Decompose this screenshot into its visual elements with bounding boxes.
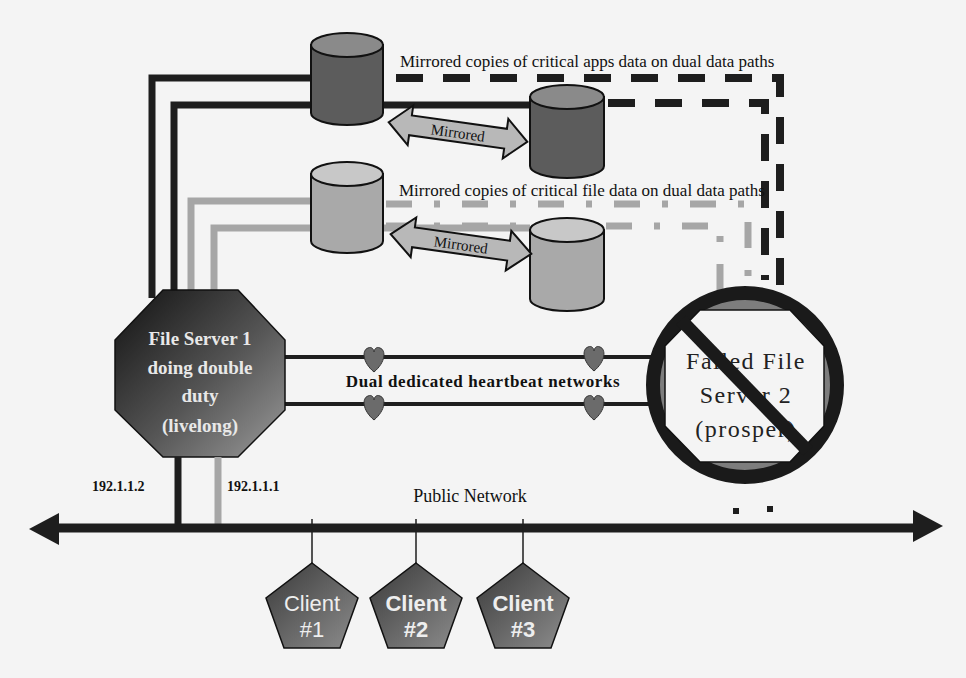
svg-text:#3: #3	[511, 617, 535, 642]
server1-line1: File Server 1	[148, 328, 251, 349]
svg-text:Client: Client	[385, 591, 447, 616]
apps-disk-primary	[311, 33, 383, 125]
public-network: Public Network	[29, 486, 943, 545]
svg-text:#2: #2	[404, 617, 428, 642]
apps-disk-mirror	[530, 85, 604, 178]
public-network-label: Public Network	[413, 486, 526, 506]
server1-line3: duty	[182, 385, 219, 406]
file-mirror-caption: Mirrored copies of critical file data on…	[399, 181, 765, 200]
link-stub	[733, 508, 739, 514]
server1-line2: doing double	[147, 357, 252, 378]
file-disk-mirror	[530, 218, 604, 311]
client-1: Client #1	[266, 519, 358, 648]
svg-text:Client: Client	[492, 591, 554, 616]
heartbeat-caption: Dual dedicated heartbeat networks	[346, 372, 620, 391]
failed-file-server-2: Failed File Server 2 (prosper)	[653, 293, 837, 477]
ip-label-right: 192.1.1.1	[227, 479, 280, 494]
cluster-failover-diagram: Mirrored copies of critical apps data on…	[0, 0, 966, 678]
svg-text:#1: #1	[300, 617, 324, 642]
heart-icon	[364, 347, 384, 372]
heart-icon	[364, 395, 384, 420]
heart-icon	[584, 346, 604, 371]
mirrored-arrow-top: Mirrored	[386, 102, 530, 161]
server1-line4: (livelong)	[162, 415, 238, 437]
heart-icon	[584, 395, 604, 420]
link-stub	[767, 506, 773, 512]
apps-mirror-caption: Mirrored copies of critical apps data on…	[400, 52, 774, 71]
file-disk-primary	[311, 162, 383, 253]
heartbeat-networks: Dual dedicated heartbeat networks	[284, 346, 660, 420]
file-server-1: File Server 1 doing double duty (livelon…	[115, 290, 285, 457]
client-3: Client #3	[477, 519, 569, 648]
arrow-left-icon	[29, 513, 59, 545]
client-2: Client #2	[370, 519, 462, 648]
ip-label-left: 192.1.1.2	[92, 479, 145, 494]
svg-text:Client: Client	[284, 591, 340, 616]
arrow-right-icon	[913, 510, 943, 542]
